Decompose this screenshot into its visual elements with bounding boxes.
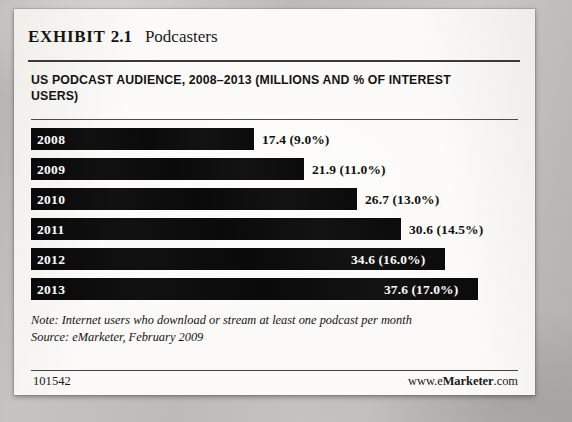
document-id: 101542 — [33, 374, 71, 389]
bar-value-label: 26.7 (13.0%) — [365, 189, 439, 210]
bar-value-label: 30.6 (14.5%) — [409, 219, 483, 240]
source-website: www.eMarketer.com — [408, 374, 518, 389]
scanned-page-photo: EXHIBIT2.1Podcasters US PODCAST AUDIENCE… — [0, 0, 572, 422]
table-row: 2010 26.7 (13.0%) — [31, 188, 518, 210]
bar-year-label: 2013 — [37, 279, 65, 300]
site-prefix: www.e — [408, 374, 443, 388]
header-divider — [28, 60, 520, 62]
bar-value-label: 21.9 (11.0%) — [312, 159, 386, 180]
exhibit-header: EXHIBIT2.1Podcasters — [28, 27, 218, 47]
bar-chart: 2008 17.4 (9.0%) 2009 21.9 (11.0%) 2010 … — [31, 128, 518, 308]
chart-notes: Note: Internet users who download or str… — [31, 313, 451, 345]
bar-value-label: 34.6 (16.0%) — [351, 249, 425, 270]
exhibit-label: EXHIBIT — [28, 27, 106, 46]
site-suffix: .com — [494, 374, 518, 388]
bar-2010 — [31, 188, 357, 210]
table-row: 2013 37.6 (17.0%) — [31, 278, 518, 300]
table-row: 2011 30.6 (14.5%) — [31, 218, 518, 240]
chart-top-divider — [31, 119, 518, 120]
bar-year-label: 2010 — [37, 189, 65, 210]
bar-value-label: 17.4 (9.0%) — [262, 129, 329, 150]
chart-title: US PODCAST AUDIENCE, 2008–2013 (MILLIONS… — [31, 73, 501, 104]
bar-2009 — [31, 158, 304, 180]
bar-value-label: 37.6 (17.0%) — [384, 279, 458, 300]
note-text: Note: Internet users who download or str… — [31, 313, 412, 327]
source-text: Source: eMarketer, February 2009 — [31, 330, 451, 346]
table-row: 2012 34.6 (16.0%) — [31, 248, 518, 270]
bar-2011 — [31, 218, 401, 240]
bar-year-label: 2012 — [37, 249, 65, 270]
table-row: 2008 17.4 (9.0%) — [31, 128, 518, 150]
bar-year-label: 2008 — [37, 129, 65, 150]
page-footer: 101542 www.eMarketer.com — [31, 373, 518, 393]
exhibit-title: Podcasters — [145, 27, 218, 46]
exhibit-number: 2.1 — [111, 27, 132, 46]
site-brand: Marketer — [443, 374, 494, 388]
table-row: 2009 21.9 (11.0%) — [31, 158, 518, 180]
footer-divider — [31, 370, 518, 371]
exhibit-page: EXHIBIT2.1Podcasters US PODCAST AUDIENCE… — [14, 9, 535, 395]
bar-year-label: 2011 — [37, 219, 64, 240]
bar-year-label: 2009 — [37, 159, 65, 180]
